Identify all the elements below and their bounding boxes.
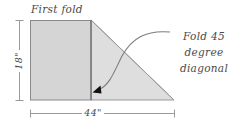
callout-label-line-3: diagonal: [180, 62, 228, 74]
fold-diagram: 18" 44" First fold Fold 45 degree diagon…: [0, 0, 236, 128]
diagram-canvas: 18" 44" First fold Fold 45 degree diagon…: [0, 0, 236, 128]
height-dimension-label: 18": [13, 52, 24, 69]
width-dimension-label: 44": [83, 107, 101, 118]
callout-label-line-2: degree: [185, 46, 224, 58]
first-fold-label: First fold: [30, 3, 83, 15]
folded-panel-rectangle: [31, 21, 92, 101]
callout-label-line-1: Fold 45: [182, 30, 225, 42]
